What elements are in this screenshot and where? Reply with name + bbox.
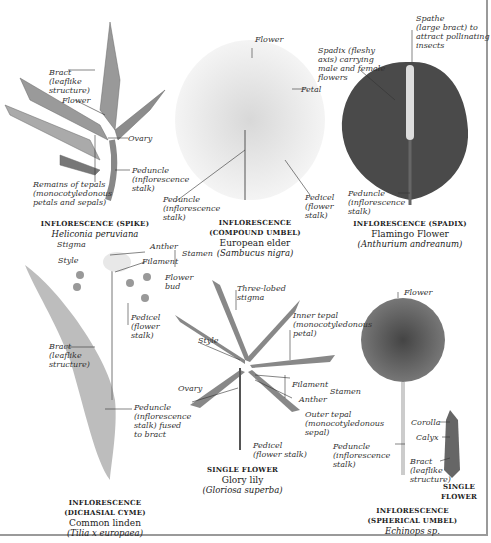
label-flower-bud: Flower bud: [165, 273, 193, 291]
label-spathe: Spathe (large bract) to attract pollinat…: [416, 14, 490, 50]
label-petal: Petal: [301, 85, 321, 94]
label-calyx: Calyx: [416, 433, 438, 442]
caption-single-flower: SINGLE FLOWER Glory lily (Gloriosa super…: [195, 465, 290, 495]
label-ovary: Ovary: [128, 134, 152, 143]
anthurium-illustration: [342, 62, 468, 205]
label-pedicel: Pedicel (flower stalk): [253, 441, 307, 459]
label-remains-tepals: Remains of tepals (monocotyledonous peta…: [33, 180, 112, 207]
label-stigma: Stigma: [57, 240, 86, 249]
label-peduncle: Peduncle (inflorescence stalk): [348, 189, 405, 216]
label-pedicel: Pedicel (flower stalk): [131, 313, 160, 340]
label-bract: Bract (leaflike structure): [49, 68, 90, 95]
label-flower: Flower: [404, 288, 432, 297]
label-pedicel: Pedicel (flower stalk): [305, 193, 334, 220]
label-flower: Flower: [62, 96, 90, 105]
caption-spike: INFLORESCENCE (SPIKE) Heliconia peruvian…: [40, 219, 150, 239]
label-outer-tepal: Outer tepal (monocotyledonous sepal): [305, 410, 384, 437]
label-anther: Anther: [150, 242, 178, 251]
label-peduncle-fused: Peduncle (inflorescence stalk) fused to …: [134, 403, 191, 439]
caption-inset-single-flower: SINGLE FLOWER: [434, 482, 484, 502]
label-style: Style: [58, 256, 79, 265]
caption-spherical-umbel: INFLORESCENCE (SPHERICAL UMBEL) Echinops…: [355, 506, 470, 536]
label-bract: Bract (leaflike structure): [49, 342, 90, 369]
label-bract: Bract (leaflike structure): [410, 457, 451, 484]
label-peduncle: Peduncle (inflorescence stalk): [132, 166, 189, 193]
label-stamen: Stamen: [330, 387, 361, 396]
caption-spadix: INFLORESCENCE (SPADIX) Flamingo Flower (…: [350, 219, 470, 249]
label-three-lobed-stigma: Three-lobed stigma: [237, 284, 286, 302]
label-style: Style: [198, 336, 219, 345]
elder-illustration: [175, 40, 325, 200]
label-stamen: Stamen: [182, 249, 213, 258]
caption-compound-umbel: INFLORESCENCE (COMPOUND UMBEL) European …: [200, 218, 310, 258]
label-filament: Filament: [292, 380, 328, 389]
label-anther: Anther: [299, 395, 327, 404]
label-peduncle: Peduncle (inflorescence stalk): [333, 442, 390, 469]
label-corolla: Corolla: [411, 418, 440, 427]
label-inner-tepal: Inner tepal (monocotyledonous petal): [293, 311, 372, 338]
label-spadix: Spadix (fleshy axis) carrying male and f…: [318, 46, 385, 82]
label-filament: Filament: [142, 257, 178, 266]
label-flower: Flower: [255, 35, 283, 44]
caption-dichasial-cyme: INFLORESCENCE (DICHASIAL CYME) Common li…: [50, 498, 160, 538]
label-ovary: Ovary: [178, 384, 202, 393]
